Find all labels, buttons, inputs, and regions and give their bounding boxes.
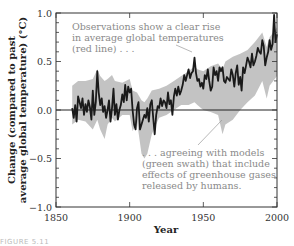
annotation-observations-line3: (red line) . . . [72, 43, 135, 54]
y-tick-label: −0.5 [29, 153, 52, 164]
y-axis-title-line2: average global temperature) (°C) [17, 17, 28, 203]
figure-caption: FIGURE 5.11 [0, 238, 49, 246]
x-axis-title: Year [153, 224, 179, 235]
annotation-observations: Observations show a clear rise in averag… [72, 21, 224, 54]
annotation-models-line3: effects of greenhouse gases [142, 169, 276, 180]
annotation-observations-arrow [176, 45, 192, 52]
x-tick-label: 1850 [44, 212, 68, 223]
annotation-models: . . . agreeing with models (green swath)… [142, 120, 276, 191]
annotation-models-arrow [198, 120, 222, 145]
x-tick-label: 2000 [265, 212, 289, 223]
y-tick-label: 0.5 [37, 56, 52, 67]
y-tick-label: −1.0 [29, 202, 52, 213]
y-tick-label: 1.0 [37, 8, 52, 19]
x-tick-labels: 1850190019502000 [44, 212, 289, 223]
annotation-models-line4: released by humans. [142, 180, 241, 191]
annotation-observations-line1: Observations show a clear rise [72, 21, 221, 32]
x-tick-label: 1950 [191, 212, 215, 223]
x-tick-label: 1900 [118, 212, 142, 223]
y-tick-label: 0.0 [37, 105, 52, 116]
y-tick-labels: 1.00.50.0−0.5−1.0 [29, 8, 52, 213]
annotation-models-line2: (green swath) that include [142, 158, 270, 169]
temperature-chart: 1.00.50.0−0.5−1.0 1850190019502000 Chang… [0, 0, 294, 246]
annotation-models-line1: . . . agreeing with models [142, 147, 265, 158]
annotation-observations-line2: in average global temperatures [72, 32, 224, 43]
y-axis-title-line1: Change (compared to past [6, 36, 17, 184]
